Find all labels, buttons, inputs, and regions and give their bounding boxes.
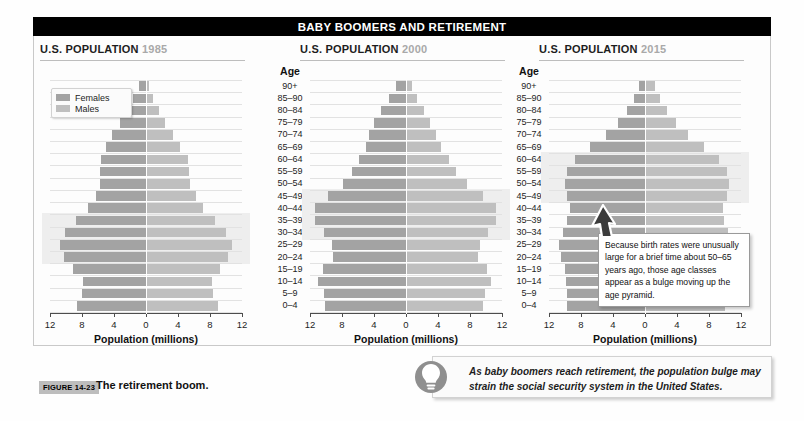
bar-females	[366, 142, 406, 152]
chart-title-year: 2000	[402, 43, 427, 55]
bar-males	[406, 167, 456, 177]
bar-males	[146, 277, 212, 287]
legend-swatch-males-icon	[56, 105, 70, 112]
bar-males	[146, 179, 190, 189]
legend-label-females: Females	[75, 93, 110, 103]
bar-females	[343, 179, 406, 189]
bar-males	[645, 179, 729, 189]
figure-caption: The retirement boom.	[96, 379, 208, 391]
center-axis-line	[406, 80, 407, 314]
chart-title-main: U.S. POPULATION	[300, 43, 399, 55]
bar-males	[146, 94, 153, 104]
tip-text: As baby boomers reach retirement, the po…	[469, 364, 765, 394]
lightbulb-icon	[414, 357, 448, 397]
bar-females	[315, 203, 406, 213]
bar-females	[627, 106, 645, 116]
banner-title: BABY BOOMERS AND RETIREMENT	[33, 17, 771, 36]
bar-females	[567, 191, 645, 201]
bar-females	[60, 240, 146, 250]
bar-males	[146, 106, 159, 116]
legend-label-males: Males	[75, 104, 99, 114]
bar-males	[406, 179, 467, 189]
x-axis-tick-label: 4	[168, 319, 188, 330]
bar-females	[64, 252, 146, 262]
bar-females	[100, 179, 146, 189]
x-axis-tick	[677, 313, 678, 317]
x-axis-tick-label: 8	[699, 319, 719, 330]
chart-title-main: U.S. POPULATION	[539, 43, 638, 55]
bar-males	[146, 228, 226, 238]
bar-females	[96, 191, 146, 201]
legend-swatch-females-icon	[56, 94, 70, 101]
x-axis-tick	[50, 313, 51, 317]
bar-males	[146, 167, 189, 177]
x-axis-label-2000: Population (millions)	[300, 333, 512, 345]
bar-males	[645, 155, 719, 165]
x-axis-tick	[178, 313, 179, 317]
chart-title-year: 1985	[142, 43, 167, 55]
callout-box: Because birth rates were unusually large…	[598, 233, 750, 307]
bar-males	[146, 289, 213, 299]
bar-females	[82, 289, 146, 299]
bar-females	[634, 94, 645, 104]
bar-males	[146, 118, 165, 128]
bar-females	[333, 252, 406, 262]
bar-females	[332, 240, 406, 250]
chart-title-year: 2015	[641, 43, 666, 55]
bar-females	[324, 289, 406, 299]
bar-females	[352, 167, 406, 177]
bar-females	[369, 130, 406, 140]
bar-females	[381, 106, 406, 116]
bar-males	[406, 142, 441, 152]
x-axis-tick-label: 0	[136, 319, 156, 330]
x-axis-tick-label: 0	[396, 319, 416, 330]
bar-females	[120, 118, 146, 128]
bar-females	[618, 118, 645, 128]
x-axis-tick	[82, 313, 83, 317]
x-axis-tick	[374, 313, 375, 317]
x-axis-tick	[613, 313, 614, 317]
bar-males	[146, 301, 218, 311]
bar-females	[83, 277, 146, 287]
bar-females	[76, 216, 146, 226]
bar-females	[100, 167, 146, 177]
x-axis-tick	[470, 313, 471, 317]
bar-females	[65, 228, 146, 238]
x-axis-tick	[741, 313, 742, 317]
bar-males	[406, 94, 417, 104]
x-axis-tick-label: 4	[603, 319, 623, 330]
figure-page: BABY BOOMERS AND RETIREMENT U.S. POPULAT…	[0, 0, 804, 421]
bar-males	[406, 191, 483, 201]
bar-males	[406, 289, 485, 299]
title-rule	[40, 60, 245, 61]
bar-females	[606, 130, 645, 140]
x-axis-tick	[549, 313, 550, 317]
chart-title-2015: U.S. POPULATION 2015	[539, 43, 744, 55]
callout-arrow-icon	[590, 204, 616, 238]
x-axis-tick	[438, 313, 439, 317]
title-rule	[300, 60, 505, 61]
bar-males	[146, 264, 220, 274]
x-axis-tick-label: 12	[539, 319, 559, 330]
bar-males	[645, 167, 727, 177]
bar-males	[146, 203, 203, 213]
bar-males	[146, 252, 228, 262]
bar-females	[133, 94, 146, 104]
x-axis-tick-label: 4	[104, 319, 124, 330]
x-axis-label-2015: Population (millions)	[539, 333, 751, 345]
bar-males	[146, 142, 180, 152]
bar-males	[406, 240, 480, 250]
bar-females	[389, 94, 406, 104]
x-axis-tick-label: 4	[667, 319, 687, 330]
x-axis-tick-label: 8	[460, 319, 480, 330]
bar-females	[590, 142, 645, 152]
bar-males	[146, 155, 188, 165]
bar-males	[645, 142, 704, 152]
x-axis-tick	[709, 313, 710, 317]
bar-females	[359, 155, 406, 165]
bar-males	[645, 81, 655, 91]
bar-females	[77, 301, 146, 311]
bar-males	[146, 240, 232, 250]
plot-area-2000	[310, 80, 502, 312]
bar-females	[325, 301, 406, 311]
